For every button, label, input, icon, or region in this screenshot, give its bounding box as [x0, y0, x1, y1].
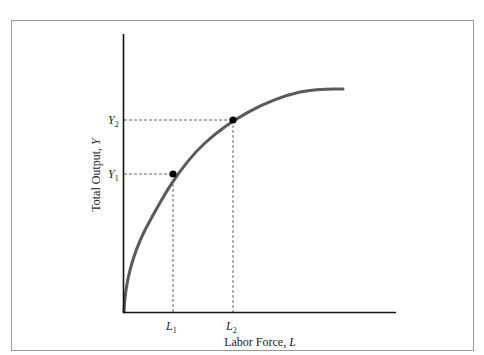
x-axis-title: Labor Force, L [224, 335, 296, 349]
y-axis-title: Total Output, Y [89, 137, 103, 212]
tick-y1: Y1 [108, 167, 119, 183]
point-2 [229, 116, 236, 123]
production-function-chart: Y1 Y2 L1 L2 Labor Force, L Total Output,… [0, 0, 484, 355]
tick-y2: Y2 [108, 113, 119, 129]
point-1 [169, 170, 176, 177]
tick-l2: L2 [225, 319, 237, 335]
tick-l1: L1 [165, 319, 177, 335]
guide-lines [124, 120, 233, 312]
